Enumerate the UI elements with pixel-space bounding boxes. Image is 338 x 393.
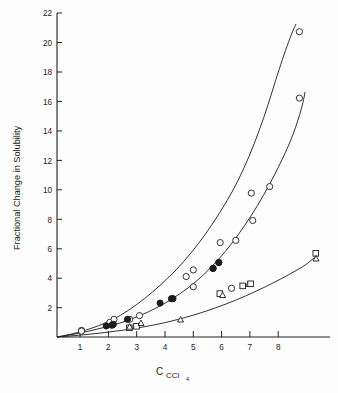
x-tick-label: 4 bbox=[163, 343, 168, 352]
x-axis-title-subscript: 4 bbox=[186, 376, 189, 382]
chart-figure: 22 20 18 16 14 12 10 8 6 4 2 1 2 3 bbox=[0, 0, 338, 393]
x-tick-label: 6 bbox=[219, 343, 224, 352]
x-tick-label: 8 bbox=[276, 343, 281, 352]
y-tick-label: 12 bbox=[43, 157, 53, 166]
y-tick-label: 20 bbox=[43, 39, 53, 48]
series-lower-markers bbox=[127, 251, 319, 331]
y-tick-label: 16 bbox=[43, 98, 53, 107]
y-axis-tick-labels: 22 20 18 16 14 12 10 8 6 4 2 bbox=[43, 9, 53, 313]
y-tick-label: 6 bbox=[47, 245, 52, 254]
y-tick-label: 2 bbox=[47, 304, 52, 313]
x-axis-title-formula: CCl bbox=[166, 371, 180, 380]
y-axis-ticks bbox=[57, 13, 62, 308]
x-tick-label: 5 bbox=[191, 343, 196, 352]
curve-lower bbox=[57, 256, 316, 337]
x-tick-label: 1 bbox=[78, 343, 83, 352]
curve-middle bbox=[57, 92, 305, 337]
x-tick-label: 2 bbox=[106, 343, 111, 352]
x-axis-title-main: C bbox=[156, 366, 163, 377]
y-axis-title: Fractional Change in Solubility bbox=[12, 125, 22, 250]
curve-upper bbox=[57, 24, 296, 337]
y-tick-label: 14 bbox=[43, 127, 53, 136]
y-tick-label: 18 bbox=[43, 68, 53, 77]
solubility-scatter-chart: 22 20 18 16 14 12 10 8 6 4 2 1 2 3 bbox=[0, 0, 338, 393]
x-axis-title: C CCl 4 bbox=[156, 366, 189, 382]
y-tick-label: 8 bbox=[47, 216, 52, 225]
series-middle-markers bbox=[78, 95, 302, 334]
y-tick-label: 4 bbox=[47, 274, 52, 283]
x-tick-label: 7 bbox=[248, 343, 253, 352]
y-tick-label: 10 bbox=[43, 186, 53, 195]
y-tick-label: 22 bbox=[43, 9, 53, 18]
x-tick-label: 3 bbox=[134, 343, 139, 352]
x-axis-tick-labels: 1 2 3 4 5 6 7 8 bbox=[78, 343, 281, 352]
